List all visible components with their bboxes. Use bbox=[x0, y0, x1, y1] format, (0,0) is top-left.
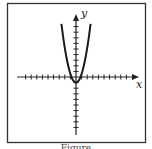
figure-caption: Figure bbox=[0, 143, 152, 149]
x-axis-label: x bbox=[136, 78, 143, 91]
y-axis-label: y bbox=[80, 7, 88, 20]
graph-figure: y x bbox=[0, 0, 152, 149]
y-axis-arrow-icon bbox=[73, 14, 79, 21]
